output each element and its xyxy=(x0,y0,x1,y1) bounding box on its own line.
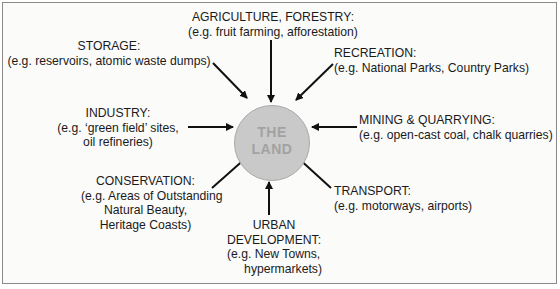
label-urban-development: URBAN DEVELOPMENT: (e.g. New Towns, hype… xyxy=(222,218,326,276)
arrow-storage xyxy=(213,63,247,98)
the-land-label: THE LAND xyxy=(234,124,310,158)
label-agriculture: AGRICULTURE, FORESTRY: (e.g. fruit farmi… xyxy=(185,10,361,39)
label-conservation: CONSERVATION: (e.g. Areas of Outstanding… xyxy=(78,174,213,232)
label-industry: INDUSTRY: (e.g. ‘green field’ sites, oil… xyxy=(50,106,186,150)
label-transport: TRANSPORT: (e.g. motorways, airports) xyxy=(334,184,472,213)
arrow-recreation xyxy=(296,64,333,100)
label-recreation: RECREATION: (e.g. National Parks, Countr… xyxy=(334,46,529,75)
label-mining: MINING & QUARRYING: (e.g. open-cast coal… xyxy=(359,113,553,142)
label-storage: STORAGE: (e.g. reservoirs, atomic waste … xyxy=(6,39,212,68)
